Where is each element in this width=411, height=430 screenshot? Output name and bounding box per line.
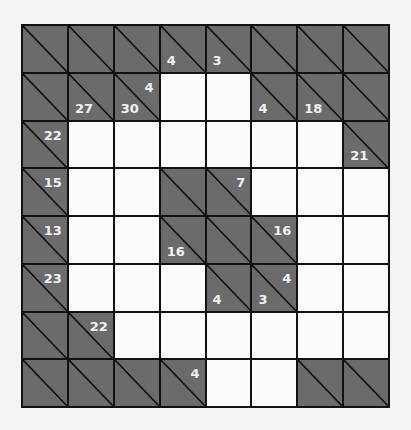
entry-cell[interactable] <box>298 265 342 311</box>
blocked-cell <box>115 360 159 406</box>
diagonal-divider <box>344 74 388 120</box>
entry-cell[interactable] <box>115 169 159 215</box>
blocked-cell <box>252 26 296 72</box>
entry-cell[interactable] <box>161 265 205 311</box>
diagonal-divider <box>252 26 296 72</box>
across-clue: 4 <box>145 81 154 94</box>
diagonal-divider <box>115 26 159 72</box>
down-clue: 16 <box>167 245 185 258</box>
entry-cell[interactable] <box>252 313 296 359</box>
clue-cell: 4 <box>207 265 251 311</box>
entry-cell[interactable] <box>252 169 296 215</box>
diagonal-divider <box>115 360 159 406</box>
blocked-cell <box>298 360 342 406</box>
blocked-cell <box>23 360 67 406</box>
clue-cell: 18 <box>298 74 342 120</box>
entry-cell[interactable] <box>344 265 388 311</box>
diagonal-divider <box>23 26 67 72</box>
blocked-cell <box>69 360 113 406</box>
entry-cell[interactable] <box>207 360 251 406</box>
down-clue: 4 <box>167 54 176 67</box>
clue-cell: 22 <box>23 122 67 168</box>
diagonal-divider <box>298 360 342 406</box>
blocked-cell <box>344 74 388 120</box>
clue-cell: 27 <box>69 74 113 120</box>
entry-cell[interactable] <box>344 169 388 215</box>
blocked-cell <box>23 313 67 359</box>
blocked-cell <box>344 26 388 72</box>
diagonal-divider <box>344 26 388 72</box>
entry-cell[interactable] <box>161 313 205 359</box>
entry-cell[interactable] <box>298 217 342 263</box>
diagonal-divider <box>161 169 205 215</box>
clue-cell: 16 <box>252 217 296 263</box>
clue-cell: 21 <box>344 122 388 168</box>
clue-cell: 4 <box>161 360 205 406</box>
entry-cell[interactable] <box>252 360 296 406</box>
diagonal-divider <box>344 360 388 406</box>
across-clue: 23 <box>44 272 62 285</box>
entry-cell[interactable] <box>115 217 159 263</box>
across-clue: 4 <box>190 367 199 380</box>
entry-cell[interactable] <box>344 313 388 359</box>
entry-cell[interactable] <box>161 74 205 120</box>
diagonal-divider <box>207 217 251 263</box>
clue-cell: 7 <box>207 169 251 215</box>
entry-cell[interactable] <box>69 122 113 168</box>
entry-cell[interactable] <box>115 313 159 359</box>
diagonal-divider <box>23 313 67 359</box>
across-clue: 22 <box>90 320 108 333</box>
clue-cell: 43 <box>252 265 296 311</box>
diagonal-divider <box>69 360 113 406</box>
across-clue: 22 <box>44 129 62 142</box>
kakuro-board: 4327430418222115713161623443224 <box>21 24 390 408</box>
entry-cell[interactable] <box>207 313 251 359</box>
diagonal-divider <box>23 360 67 406</box>
entry-cell[interactable] <box>344 217 388 263</box>
across-clue: 15 <box>44 176 62 189</box>
blocked-cell <box>69 26 113 72</box>
entry-cell[interactable] <box>115 265 159 311</box>
down-clue: 27 <box>75 102 93 115</box>
blocked-cell <box>23 26 67 72</box>
entry-cell[interactable] <box>115 122 159 168</box>
entry-cell[interactable] <box>298 169 342 215</box>
clue-cell: 15 <box>23 169 67 215</box>
down-clue: 30 <box>121 102 139 115</box>
clue-cell: 4 <box>161 26 205 72</box>
clue-cell: 23 <box>23 265 67 311</box>
clue-cell: 13 <box>23 217 67 263</box>
blocked-cell <box>115 26 159 72</box>
blocked-cell <box>298 26 342 72</box>
entry-cell[interactable] <box>69 169 113 215</box>
blocked-cell <box>23 74 67 120</box>
down-clue: 4 <box>258 102 267 115</box>
entry-cell[interactable] <box>252 122 296 168</box>
entry-cell[interactable] <box>207 74 251 120</box>
across-clue: 16 <box>273 224 291 237</box>
clue-cell: 4 <box>252 74 296 120</box>
entry-cell[interactable] <box>161 122 205 168</box>
across-clue: 7 <box>236 176 245 189</box>
entry-cell[interactable] <box>69 265 113 311</box>
entry-cell[interactable] <box>298 313 342 359</box>
down-clue: 4 <box>213 293 222 306</box>
down-clue: 3 <box>213 54 222 67</box>
across-clue: 4 <box>282 272 291 285</box>
across-clue: 13 <box>44 224 62 237</box>
diagonal-divider <box>298 26 342 72</box>
clue-cell: 22 <box>69 313 113 359</box>
entry-cell[interactable] <box>207 122 251 168</box>
diagonal-divider <box>69 26 113 72</box>
down-clue: 3 <box>258 293 267 306</box>
entry-cell[interactable] <box>69 217 113 263</box>
entry-cell[interactable] <box>298 122 342 168</box>
clue-cell: 430 <box>115 74 159 120</box>
blocked-cell <box>207 217 251 263</box>
diagonal-divider <box>23 74 67 120</box>
blocked-cell <box>344 360 388 406</box>
blocked-cell <box>161 169 205 215</box>
down-clue: 18 <box>304 102 322 115</box>
clue-cell: 16 <box>161 217 205 263</box>
down-clue: 21 <box>350 149 368 162</box>
